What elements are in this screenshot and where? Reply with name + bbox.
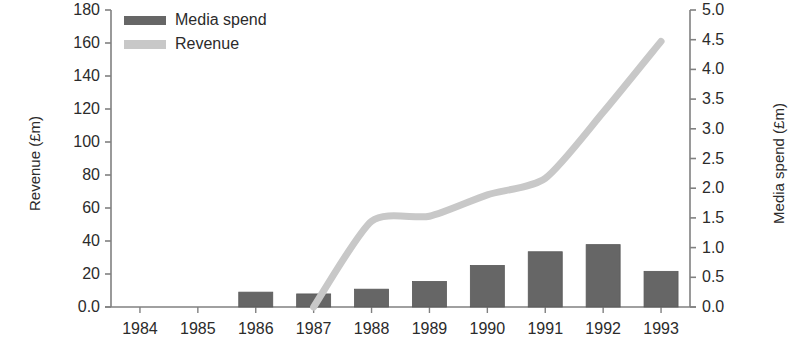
y-axis-left-tick-label: 100 [40, 134, 100, 150]
y-axis-right-tick-label: 2.5 [702, 151, 762, 167]
y-axis-right-tick-label: 1.5 [702, 210, 762, 226]
legend-item-label: Media spend [175, 11, 267, 29]
y-axis-right-tick-label: 2.0 [702, 180, 762, 196]
plot-area [0, 0, 788, 342]
legend-item[interactable]: Media spend [124, 8, 267, 32]
legend-item[interactable]: Revenue [124, 32, 267, 56]
x-axis-tick-label: 1993 [626, 320, 696, 338]
y-axis-right-tick-label: 4.5 [702, 32, 762, 48]
y-axis-left-tick-label: 80 [40, 167, 100, 183]
y-axis-left-tick-label: 160 [40, 35, 100, 51]
chart-legend: Media spendRevenue [124, 8, 267, 56]
y-axis-left-tick-label: 60 [40, 200, 100, 216]
bar-media-spend[interactable] [470, 265, 504, 307]
y-axis-right-tick-label: 3.0 [702, 121, 762, 137]
legend-item-label: Revenue [175, 35, 239, 53]
legend-swatch-icon [124, 40, 166, 49]
y-axis-right-tick-label: 0.5 [702, 269, 762, 285]
y-axis-left-tick-label: 180 [40, 2, 100, 18]
bar-media-spend[interactable] [239, 292, 273, 307]
legend-swatch-icon [124, 16, 166, 25]
dual-axis-chart: Revenue (£m) Media spend (£m) Media spen… [0, 0, 788, 342]
y-axis-right-tick-label: 4.0 [702, 61, 762, 77]
y-axis-left-tick-label: 40 [40, 233, 100, 249]
y-axis-right-tick-label: 5.0 [702, 2, 762, 18]
y-axis-left-tick-label: 120 [40, 101, 100, 117]
bar-media-spend[interactable] [586, 245, 620, 307]
bar-media-spend[interactable] [355, 289, 389, 307]
y-axis-left-tick-label: 0.0 [40, 299, 100, 315]
y-axis-left-tick-label: 20 [40, 266, 100, 282]
y-axis-right-tick-label: 1.0 [702, 240, 762, 256]
bar-media-spend[interactable] [644, 271, 678, 307]
y-axis-right-tick-label: 3.5 [702, 91, 762, 107]
bar-media-spend[interactable] [528, 252, 562, 307]
y-axis-left-tick-label: 140 [40, 68, 100, 84]
bar-media-spend[interactable] [412, 281, 446, 307]
y-axis-right-tick-label: 0.0 [702, 299, 762, 315]
